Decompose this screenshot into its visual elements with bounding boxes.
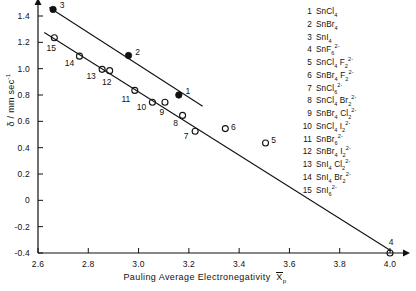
legend-item: 7SnCl62- bbox=[297, 83, 413, 96]
formula-subscript: 4 bbox=[335, 114, 338, 120]
x-tick-label: 4.0 bbox=[384, 259, 396, 269]
data-point-label: 1 bbox=[185, 86, 190, 96]
formula-charge: 2- bbox=[348, 56, 353, 62]
legend-item: 3SnI4 bbox=[297, 32, 413, 45]
formula-subscript: 4 bbox=[329, 177, 332, 183]
formula-subscript: 2 bbox=[342, 126, 345, 132]
legend-item-number: 1 bbox=[297, 6, 312, 19]
legend-item: 11SnBr62- bbox=[297, 134, 413, 147]
legend-item-formula: SnBr62- bbox=[316, 134, 343, 147]
legend-item-formula: SnCl4 bbox=[316, 6, 337, 19]
legend-item-formula: SnCl4 Br22- bbox=[316, 95, 356, 108]
formula-charge: 2- bbox=[351, 107, 356, 113]
y-tick-label: 1.4 bbox=[0, 11, 30, 21]
data-point-label: 7 bbox=[184, 131, 189, 141]
formula-element: SnBr bbox=[316, 147, 335, 156]
x-tick-label: 2.8 bbox=[82, 259, 94, 269]
y-tick-label: -0.2 bbox=[0, 222, 30, 232]
scatter-chart-figure: 2.62.83.03.23.43.63.84.01.41.21.00.80.60… bbox=[0, 0, 416, 291]
formula-element: SnF bbox=[316, 45, 331, 54]
legend-item-formula: SnI4 bbox=[316, 32, 332, 45]
data-point-label: 13 bbox=[86, 71, 95, 81]
formula-subscript: 4 bbox=[334, 63, 337, 69]
formula-subscript: 6 bbox=[329, 190, 332, 196]
formula-charge: 2- bbox=[332, 184, 337, 190]
formula-subscript: 2 bbox=[343, 177, 346, 183]
x-axis-title-text: Pauling Average Electronegativity bbox=[123, 272, 270, 282]
legend-item-formula: SnCl4 F22- bbox=[316, 57, 353, 70]
legend-item-number: 2 bbox=[297, 19, 312, 32]
formula-charge: 2- bbox=[345, 158, 350, 164]
x-tick-label: 3.2 bbox=[183, 259, 195, 269]
y-tick-label: -0.4 bbox=[0, 248, 30, 258]
legend-item-number: 6 bbox=[297, 70, 312, 83]
formula-charge: 2- bbox=[351, 95, 356, 101]
data-point-marker bbox=[162, 99, 168, 105]
y-axis-symbol: δ bbox=[6, 121, 16, 126]
data-point-label: 9 bbox=[160, 107, 165, 117]
legend-item-number: 11 bbox=[297, 134, 312, 147]
legend-item-number: 7 bbox=[297, 83, 312, 96]
legend-item: 8SnCl4 Br22- bbox=[297, 95, 413, 108]
legend-item-formula: SnI4 Cl22- bbox=[316, 159, 350, 172]
y-axis-exponent: -1 bbox=[4, 73, 11, 79]
formula-subscript: 2 bbox=[345, 63, 348, 69]
formula-subscript: 4 bbox=[334, 101, 337, 107]
formula-subscript: 6 bbox=[331, 50, 334, 56]
formula-element: SnI bbox=[316, 173, 329, 182]
y-tick-label: 0.4 bbox=[0, 143, 30, 153]
legend-item: 2SnBr4 bbox=[297, 19, 413, 32]
data-point-label: 4 bbox=[389, 237, 394, 247]
legend-item: 12SnBr4 I22- bbox=[297, 146, 413, 159]
legend-item: 9SnBr4 Cl22- bbox=[297, 108, 413, 121]
data-point-marker bbox=[180, 112, 186, 118]
formula-element: SnCl bbox=[316, 84, 334, 93]
formula-subscript: 4 bbox=[335, 152, 338, 158]
formula-element: Br bbox=[340, 96, 348, 105]
formula-charge: 2- bbox=[349, 69, 354, 75]
formula-subscript: 2 bbox=[348, 114, 351, 120]
legend-item-number: 12 bbox=[297, 146, 312, 159]
data-point-marker bbox=[107, 68, 113, 74]
formula-element: SnBr bbox=[316, 71, 335, 80]
formula-subscript: 2 bbox=[345, 75, 348, 81]
x-tick-label: 3.8 bbox=[333, 259, 345, 269]
formula-element: SnI bbox=[316, 33, 329, 42]
x-tick-label: 3.0 bbox=[132, 259, 144, 269]
legend-item-number: 5 bbox=[297, 57, 312, 70]
legend-item: 5SnCl4 F22- bbox=[297, 57, 413, 70]
formula-subscript: 4 bbox=[334, 126, 337, 132]
data-point-label: 5 bbox=[271, 135, 276, 145]
formula-subscript: 2 bbox=[342, 165, 345, 171]
data-point-marker bbox=[176, 92, 182, 98]
data-point-label: 15 bbox=[47, 43, 56, 53]
data-point-label: 2 bbox=[135, 47, 140, 57]
formula-subscript: 2 bbox=[343, 152, 346, 158]
x-tick-label: 3.4 bbox=[233, 259, 245, 269]
formula-charge: 2- bbox=[338, 133, 343, 139]
legend-item: 10SnCl4 I22- bbox=[297, 121, 413, 134]
legend-item-number: 14 bbox=[297, 172, 312, 185]
formula-charge: 2- bbox=[346, 171, 351, 177]
data-point-label: 10 bbox=[137, 102, 146, 112]
formula-charge: 2- bbox=[337, 82, 342, 88]
legend-item: 14SnI4 Br22- bbox=[297, 172, 413, 185]
data-point-label: 12 bbox=[102, 77, 111, 87]
formula-charge: 2- bbox=[335, 44, 340, 50]
formula-subscript: 4 bbox=[329, 37, 332, 43]
formula-charge: 2- bbox=[346, 146, 351, 152]
formula-element: SnCl bbox=[316, 7, 334, 16]
legend-item-formula: SnCl4 I22- bbox=[316, 121, 350, 134]
legend-item: 15SnI62- bbox=[297, 185, 413, 198]
formula-element: Cl bbox=[340, 109, 348, 118]
legend-item-formula: SnBr4 bbox=[316, 19, 338, 32]
formula-subscript: 6 bbox=[334, 88, 337, 94]
legend-item-number: 3 bbox=[297, 32, 312, 45]
formula-subscript: 4 bbox=[335, 75, 338, 81]
data-point-marker bbox=[192, 128, 198, 134]
x-tick-label: 2.6 bbox=[32, 259, 44, 269]
formula-element: SnBr bbox=[316, 20, 335, 29]
data-point-label: 11 bbox=[121, 94, 130, 104]
legend-item: 13SnI4 Cl22- bbox=[297, 159, 413, 172]
formula-subscript: 2 bbox=[348, 101, 351, 107]
